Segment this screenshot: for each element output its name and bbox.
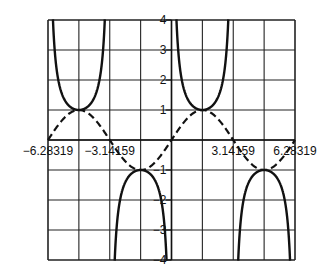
y-tick-label: 1: [160, 103, 167, 117]
y-tick-label: 3: [160, 43, 167, 57]
x-tick-label: −6.28319: [23, 144, 74, 158]
y-tick-label: 2: [160, 73, 167, 87]
y-tick-label: −4: [153, 253, 167, 267]
x-tick-label: 6.28319: [273, 144, 317, 158]
y-tick-label: −2: [153, 193, 167, 207]
x-tick-label: −3.14159: [85, 144, 136, 158]
y-tick-label: −3: [153, 223, 167, 237]
x-tick-label: 3.14159: [212, 144, 256, 158]
y-tick-label: −1: [153, 163, 167, 177]
csc-sin-chart: −6.28319−3.141593.141596.28319−4−3−2−112…: [0, 0, 332, 276]
y-tick-label: 4: [160, 13, 167, 27]
